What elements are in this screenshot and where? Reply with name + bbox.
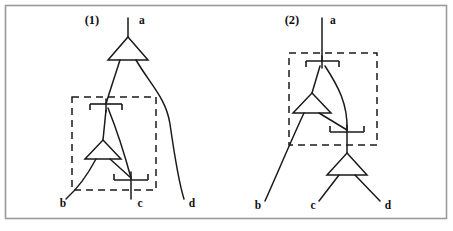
diagram-2-wire-gatebottom-to-d	[355, 175, 380, 201]
diagram-2-wire-junction-to-innergate	[312, 66, 320, 93]
diagram-2-gate-inner	[293, 93, 331, 113]
figure-container: (1) a b c d	[0, 0, 453, 231]
diagram-1-wire-junction-to-innergate	[103, 110, 106, 140]
diagram-2-terminal-label-b: b	[255, 199, 261, 211]
diagram-1-gate-top	[108, 37, 148, 60]
diagram-2-group: (2) a b c d	[255, 13, 392, 211]
diagram-2-wire-junction-to-lowerjunction	[325, 66, 347, 130]
diagram-1-terminal-label-d: d	[189, 197, 196, 209]
diagram-1-terminal-label-b: b	[60, 197, 66, 209]
diagram-1-number-label: (1)	[85, 13, 100, 27]
diagram-2-number-label: (2)	[285, 13, 300, 27]
circuit-diagram-svg: (1) a b c d	[0, 0, 453, 231]
diagram-2-terminal-label-d: d	[385, 199, 392, 211]
diagram-2-wire-gatebottom-to-c	[319, 175, 339, 201]
diagram-2-terminal-label-c: c	[310, 199, 315, 211]
diagram-1-terminal-label-a: a	[139, 14, 145, 26]
diagram-1-wire-innergate-to-b	[66, 159, 96, 199]
diagram-2-terminal-label-a: a	[330, 14, 336, 26]
diagram-2-wire-innergate-to-b	[265, 113, 304, 201]
diagram-2-gate-bottom	[327, 153, 367, 175]
diagram-1-wire-topgate-to-d	[136, 60, 184, 199]
diagram-1-terminal-label-c: c	[137, 197, 142, 209]
diagram-1-gate-inner	[85, 140, 121, 159]
diagram-2-wire-innergate-to-lowerjunction	[319, 113, 347, 130]
diagram-1-group: (1) a b c d	[60, 13, 196, 209]
